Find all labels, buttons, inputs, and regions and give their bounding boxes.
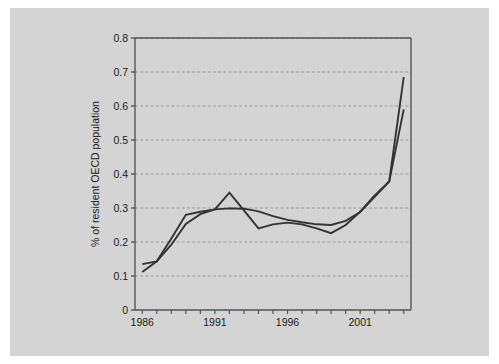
y-tick-label: 0.5 [113, 134, 128, 146]
y-tick-label: 0.1 [113, 270, 128, 282]
data-series-line [142, 109, 403, 272]
y-tick-label: 0.4 [113, 168, 128, 180]
y-tick-label: 0.8 [113, 32, 128, 44]
chart-container: 00.10.20.30.40.50.60.70.8 19861991199620… [10, 8, 489, 356]
x-tick-label: 1986 [131, 316, 155, 328]
x-tick-label: 1991 [203, 316, 227, 328]
y-axis-title: % of resident OECD population [89, 101, 101, 247]
data-series-line [142, 77, 403, 264]
y-tick-label: 0.6 [113, 100, 128, 112]
x-tick-label: 2001 [348, 316, 372, 328]
gridlines-group [135, 38, 411, 276]
y-tick-label: 0 [122, 304, 128, 316]
figure-panel: 00.10.20.30.40.50.60.70.8 19861991199620… [10, 8, 489, 356]
y-axis-tick-labels: 00.10.20.30.40.50.60.70.8 [113, 32, 128, 316]
x-axis-tick-labels: 1986199119962001 [131, 316, 372, 328]
y-tick-label: 0.3 [113, 202, 128, 214]
y-tick-label: 0.7 [113, 66, 128, 78]
y-tick-label: 0.2 [113, 236, 128, 248]
line-chart: 00.10.20.30.40.50.60.70.8 19861991199620… [10, 8, 489, 356]
x-tick-label: 1996 [276, 316, 300, 328]
